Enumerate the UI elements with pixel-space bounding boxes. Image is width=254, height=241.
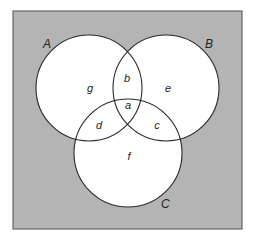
set-label-c: C [161, 197, 170, 211]
region-label-a: a [125, 99, 131, 111]
set-label-a: A [42, 37, 51, 51]
region-label-c: c [154, 119, 160, 131]
region-label-e: e [165, 82, 171, 94]
set-label-b: B [205, 37, 213, 51]
venn-diagram: A B C g b e a d c f [0, 0, 254, 241]
region-label-b: b [124, 72, 130, 84]
region-label-d: d [96, 119, 103, 131]
region-label-g: g [87, 82, 94, 94]
